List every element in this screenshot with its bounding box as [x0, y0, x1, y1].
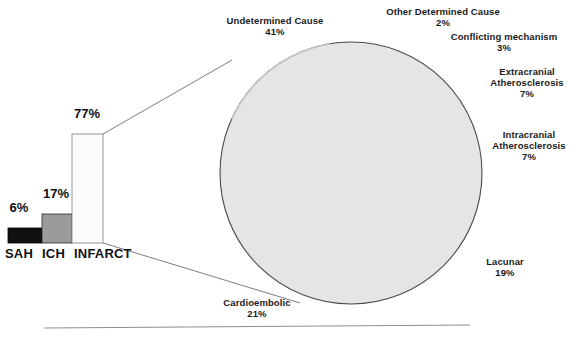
pie-label-lacunar: Lacunar 19%: [466, 256, 544, 278]
bar-ich: [42, 214, 72, 243]
pie-label-extracranial-atherosclerosis: Extracranial Atherosclerosis 7%: [470, 66, 584, 100]
pie-label-extracranial-line1: Extracranial: [499, 66, 555, 77]
pie-label-intracranial-line1: Intracranial: [503, 129, 555, 140]
pie-label-intracranial-line2: Atherosclerosis: [492, 140, 565, 151]
bar-category-infarct: INFARCT: [74, 246, 132, 261]
pie-label-conflicting-mechanism-text: Conflicting mechanism: [451, 31, 558, 42]
bar-value-ich: 17%: [36, 186, 76, 201]
pie-circle: [220, 42, 482, 304]
pie-value-lacunar: 19%: [466, 267, 544, 278]
bar-value-infarct: 77%: [65, 106, 109, 121]
bar-infarct: [72, 134, 103, 243]
pie-value-undetermined-cause: 41%: [205, 26, 345, 37]
pie-label-intracranial-atherosclerosis: Intracranial Atherosclerosis 7%: [472, 129, 586, 163]
pie-label-lacunar-text: Lacunar: [486, 256, 524, 267]
pie-label-undetermined-cause-text: Undetermined Cause: [227, 15, 324, 26]
pie-value-other-determined-cause: 2%: [363, 17, 523, 28]
pie-label-cardioembolic: Cardioembolic 21%: [205, 297, 309, 319]
bar-category-sah: SAH: [5, 246, 33, 261]
pie-value-cardioembolic: 21%: [205, 308, 309, 319]
pie-label-undetermined-cause: Undetermined Cause 41%: [205, 15, 345, 37]
bar-category-ich: ICH: [42, 246, 65, 261]
pie-label-conflicting-mechanism: Conflicting mechanism 3%: [428, 31, 580, 53]
pie-value-extracranial-atherosclerosis: 7%: [470, 88, 584, 99]
pie-label-cardioembolic-text: Cardioembolic: [223, 297, 290, 308]
pie-label-extracranial-line2: Atherosclerosis: [490, 77, 563, 88]
bar-value-sah: 6%: [2, 200, 36, 215]
pie-label-other-determined-cause-text: Other Determined Cause: [386, 6, 500, 17]
stroke-subtype-figure: 6% 17% 77% SAH ICH INFARCT Undetermined …: [0, 0, 588, 337]
bar-sah: [8, 228, 42, 243]
figure-baseline-rule: [44, 325, 470, 328]
pie-label-other-determined-cause: Other Determined Cause 2%: [363, 6, 523, 28]
callout-line-upper: [103, 60, 232, 134]
pie-value-conflicting-mechanism: 3%: [428, 42, 580, 53]
pie-value-intracranial-atherosclerosis: 7%: [472, 151, 586, 162]
